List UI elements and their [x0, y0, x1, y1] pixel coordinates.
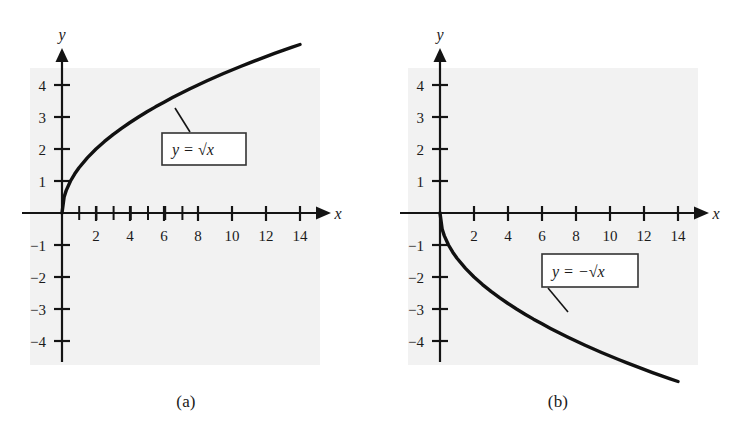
x-tick-label-a-4: 10: [225, 228, 240, 244]
y-axis-arrow-b: [434, 48, 447, 62]
equation-label-a-text: y = √x: [170, 141, 214, 159]
x-tick-label-b-1: 4: [504, 228, 512, 244]
panel-b: 2 4 6 8 10 12 14 4 3 2 1 −1: [372, 0, 744, 438]
x-tick-label-a-3: 8: [194, 228, 202, 244]
x-axis-label-b: x: [711, 205, 719, 222]
x-axis-arrow-a: [316, 207, 331, 220]
equation-label-b-text: y = −√x: [550, 263, 605, 281]
plot-b: 2 4 6 8 10 12 14 4 3 2 1 −1: [372, 0, 744, 392]
equation-label-b: y = −√x: [542, 254, 638, 287]
x-tick-label-a-2: 6: [160, 228, 168, 244]
x-tick-label-a-5: 12: [259, 228, 274, 244]
y-tick-label-a-3: 1: [39, 174, 47, 190]
plot-a: 2 4 6 8 10 12 14 4 3 2 1 −1: [0, 0, 372, 392]
y-tick-label-b-5: −2: [408, 270, 424, 286]
y-tick-label-a-1: 3: [39, 110, 47, 126]
y-tick-label-b-3: 1: [417, 174, 425, 190]
panel-b-caption: (b): [372, 392, 744, 412]
y-axis-label-a: y: [56, 26, 66, 44]
y-axis-arrow-a: [56, 48, 69, 62]
square-root-function-figure: 2 4 6 8 10 12 14 4 3 2 1 −1: [0, 0, 744, 438]
x-tick-label-a-0: 2: [92, 228, 100, 244]
x-tick-label-a-6: 14: [293, 228, 309, 244]
panel-a-caption: (a): [0, 392, 372, 412]
y-tick-label-b-7: −4: [408, 334, 424, 350]
x-tick-label-b-0: 2: [470, 228, 478, 244]
y-tick-label-b-0: 4: [417, 78, 425, 94]
y-axis-label-b: y: [434, 26, 444, 44]
x-axis-label-a: x: [333, 205, 341, 222]
x-tick-label-b-4: 10: [603, 228, 618, 244]
x-tick-label-b-6: 14: [671, 228, 687, 244]
y-tick-label-a-2: 2: [39, 142, 47, 158]
plot-background-b: [408, 68, 698, 365]
y-tick-label-a-0: 4: [39, 78, 47, 94]
y-tick-label-b-1: 3: [417, 110, 425, 126]
y-tick-label-b-2: 2: [417, 142, 425, 158]
equation-label-a: y = √x: [162, 133, 246, 165]
y-tick-label-a-6: −3: [30, 302, 46, 318]
panel-a: 2 4 6 8 10 12 14 4 3 2 1 −1: [0, 0, 372, 438]
y-tick-label-a-7: −4: [30, 334, 46, 350]
x-tick-label-a-1: 4: [126, 228, 134, 244]
x-tick-label-b-3: 8: [572, 228, 580, 244]
x-tick-label-b-5: 12: [637, 228, 652, 244]
y-tick-label-b-6: −3: [408, 302, 424, 318]
x-axis-arrow-b: [694, 207, 709, 220]
y-tick-label-a-5: −2: [30, 270, 46, 286]
y-tick-label-a-4: −1: [30, 238, 46, 254]
y-tick-label-b-4: −1: [408, 238, 424, 254]
plot-background-a: [30, 68, 320, 365]
x-tick-label-b-2: 6: [538, 228, 546, 244]
